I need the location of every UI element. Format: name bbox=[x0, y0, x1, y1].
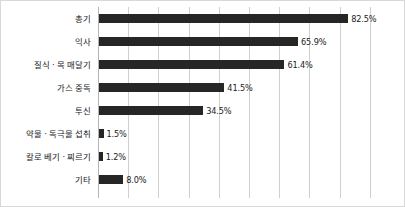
bar bbox=[99, 37, 298, 46]
bar-row: 기타8.0% bbox=[1, 168, 404, 191]
bar-row: 칼로 베기 · 찌르기1.2% bbox=[1, 145, 404, 168]
bar-rows: 총기82.5%익사65.9%질식 · 목 매달기61.4%가스 중독41.5%투… bbox=[1, 7, 404, 198]
bar-value-label: 8.0% bbox=[126, 175, 146, 185]
category-label: 총기 bbox=[1, 14, 91, 24]
bar-container: 1.5% bbox=[99, 122, 404, 145]
category-label: 가스 중독 bbox=[1, 83, 91, 93]
category-label: 약물 · 독극물 섭취 bbox=[1, 129, 91, 139]
category-label: 익사 bbox=[1, 37, 91, 47]
bar-container: 8.0% bbox=[99, 168, 404, 191]
bar-row: 약물 · 독극물 섭취1.5% bbox=[1, 122, 404, 145]
bar-value-label: 1.5% bbox=[107, 129, 127, 139]
bar-container: 82.5% bbox=[99, 7, 404, 30]
category-label: 질식 · 목 매달기 bbox=[1, 60, 91, 70]
bar-row: 투신34.5% bbox=[1, 99, 404, 122]
category-label: 칼로 베기 · 찌르기 bbox=[1, 152, 91, 162]
bar bbox=[99, 175, 123, 184]
bar-value-label: 65.9% bbox=[301, 37, 326, 47]
bar bbox=[99, 129, 104, 138]
bar-container: 1.2% bbox=[99, 145, 404, 168]
bar-container: 61.4% bbox=[99, 53, 404, 76]
bar-value-label: 41.5% bbox=[227, 83, 252, 93]
category-label: 기타 bbox=[1, 175, 91, 185]
category-label: 투신 bbox=[1, 106, 91, 116]
bar-value-label: 82.5% bbox=[351, 14, 376, 24]
bar-row: 익사65.9% bbox=[1, 30, 404, 53]
bar-container: 65.9% bbox=[99, 30, 404, 53]
bar-container: 34.5% bbox=[99, 99, 404, 122]
bar-value-label: 34.5% bbox=[206, 106, 231, 116]
bar-value-label: 1.2% bbox=[106, 152, 126, 162]
bar-value-label: 61.4% bbox=[287, 60, 312, 70]
bar bbox=[99, 83, 224, 92]
bar bbox=[99, 106, 203, 115]
bar-chart: 총기82.5%익사65.9%질식 · 목 매달기61.4%가스 중독41.5%투… bbox=[0, 0, 405, 207]
bar-container: 41.5% bbox=[99, 76, 404, 99]
bar-row: 질식 · 목 매달기61.4% bbox=[1, 53, 404, 76]
bar bbox=[99, 60, 284, 69]
bar-row: 총기82.5% bbox=[1, 7, 404, 30]
bar-row: 가스 중독41.5% bbox=[1, 76, 404, 99]
bar bbox=[99, 14, 348, 23]
bar bbox=[99, 152, 103, 161]
